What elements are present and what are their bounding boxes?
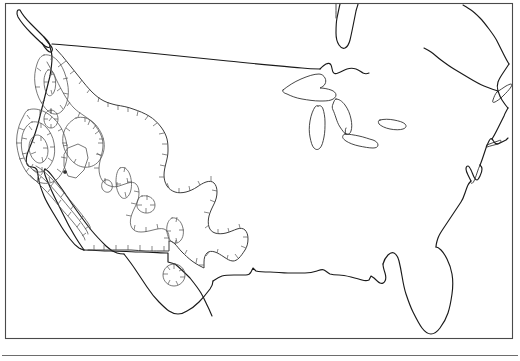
map-frame [6, 4, 513, 339]
map-figure [0, 0, 520, 361]
point-marker [63, 170, 66, 173]
map-canvas [0, 0, 520, 361]
